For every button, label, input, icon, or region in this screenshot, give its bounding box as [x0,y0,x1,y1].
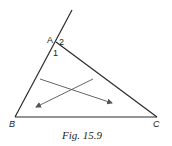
side-ac [56,42,157,117]
vertex-label-a: A [47,35,53,45]
vertex-label-c: C [153,119,160,129]
side-ba-extended [15,10,72,117]
figure-caption: Fig. 15.9 [61,129,103,141]
triangle-diagram: A 2 1 B C Fig. 15.9 [0,0,172,146]
angle-label-1: 1 [53,48,58,58]
angle-label-2: 2 [59,37,64,47]
vertex-label-b: B [9,119,15,129]
arrow-2 [36,79,93,107]
